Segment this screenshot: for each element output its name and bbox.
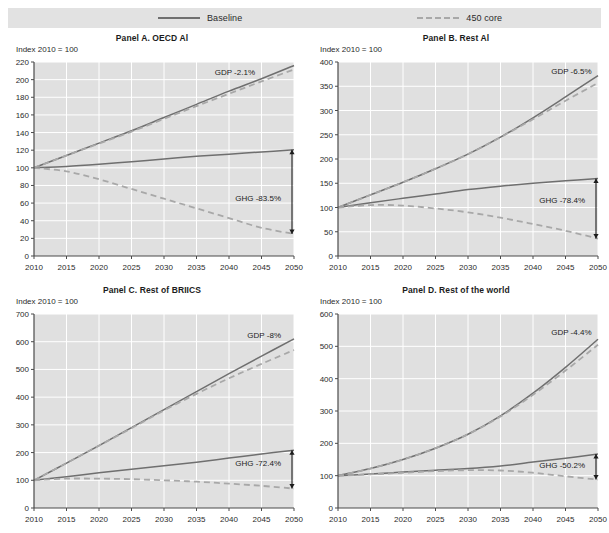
y-tick-label: 350 bbox=[320, 82, 334, 91]
panel-d-svg: 0100200300400500600201020152020202520302… bbox=[304, 308, 608, 530]
panel-a: Panel A. OECD Al Index 2010 = 100 020406… bbox=[0, 30, 304, 280]
y-tick-label: 400 bbox=[16, 393, 30, 402]
legend-label-baseline: Baseline bbox=[207, 13, 242, 23]
x-tick-label: 2050 bbox=[589, 515, 607, 524]
y-tick-label: 0 bbox=[25, 504, 30, 513]
annotation-ghg-gap: GHG -72.4% bbox=[235, 459, 281, 468]
y-tick-label: 100 bbox=[16, 164, 30, 173]
y-tick-label: 160 bbox=[16, 111, 30, 120]
x-tick-label: 2020 bbox=[394, 263, 412, 272]
x-tick-label: 2030 bbox=[459, 515, 477, 524]
x-tick-label: 2025 bbox=[427, 515, 445, 524]
x-tick-label: 2025 bbox=[427, 263, 445, 272]
panel-c-index-note: Index 2010 = 100 bbox=[0, 297, 304, 308]
y-tick-label: 300 bbox=[320, 407, 334, 416]
x-tick-label: 2040 bbox=[524, 263, 542, 272]
y-tick-label: 200 bbox=[16, 449, 30, 458]
y-tick-label: 600 bbox=[16, 338, 30, 347]
x-tick-label: 2035 bbox=[188, 263, 206, 272]
y-tick-label: 600 bbox=[320, 310, 334, 319]
annotation-gdp-gap: GDP -6.5% bbox=[551, 67, 591, 76]
x-tick-label: 2040 bbox=[220, 263, 238, 272]
y-tick-label: 500 bbox=[16, 365, 30, 374]
panel-d-plot: 0100200300400500600201020152020202520302… bbox=[304, 308, 608, 530]
panel-a-title: Panel A. OECD Al bbox=[0, 30, 304, 45]
panel-b-index-note: Index 2010 = 100 bbox=[304, 45, 608, 56]
panel-b-title: Panel B. Rest Al bbox=[304, 30, 608, 45]
panel-c-title: Panel C. Rest of BRIICS bbox=[0, 282, 304, 297]
y-tick-label: 400 bbox=[320, 58, 334, 67]
y-tick-label: 120 bbox=[16, 146, 30, 155]
annotation-ghg-gap: GHG -83.5% bbox=[235, 194, 281, 203]
x-tick-label: 2045 bbox=[253, 515, 271, 524]
x-tick-label: 2030 bbox=[155, 263, 173, 272]
panel-c-svg: 0100200300400500600700201020152020202520… bbox=[0, 308, 304, 530]
x-tick-label: 2010 bbox=[329, 263, 347, 272]
panel-a-plot: 0204060801001201401601802002202010201520… bbox=[0, 56, 304, 278]
x-tick-label: 2010 bbox=[329, 515, 347, 524]
panel-d: Panel D. Rest of the world Index 2010 = … bbox=[304, 282, 608, 532]
y-tick-label: 20 bbox=[20, 234, 29, 243]
x-tick-label: 2025 bbox=[123, 515, 141, 524]
panel-d-title: Panel D. Rest of the world bbox=[304, 282, 608, 297]
x-tick-label: 2035 bbox=[492, 263, 510, 272]
x-tick-label: 2035 bbox=[188, 515, 206, 524]
y-tick-label: 0 bbox=[25, 252, 30, 261]
annotation-gdp-gap: GDP -2.1% bbox=[215, 68, 255, 77]
y-tick-label: 300 bbox=[16, 421, 30, 430]
y-tick-label: 250 bbox=[320, 131, 334, 140]
x-tick-label: 2030 bbox=[459, 263, 477, 272]
panel-b-svg: 0501001502002503003504002010201520202025… bbox=[304, 56, 608, 278]
annotation-ghg-gap: GHG -78.4% bbox=[539, 196, 585, 205]
legend-item-baseline: Baseline bbox=[158, 13, 242, 23]
y-tick-label: 100 bbox=[16, 476, 30, 485]
annotation-ghg-gap: GHG -50.2% bbox=[539, 461, 585, 470]
legend-label-450-core: 450 core bbox=[466, 13, 502, 23]
y-tick-label: 500 bbox=[320, 342, 334, 351]
y-tick-label: 400 bbox=[320, 375, 334, 384]
figure-root: Baseline 450 core Panel A. OECD Al Index… bbox=[0, 0, 609, 533]
x-tick-label: 2050 bbox=[285, 515, 303, 524]
x-tick-label: 2025 bbox=[123, 263, 141, 272]
annotation-gdp-gap: GDP -8% bbox=[247, 331, 281, 340]
x-tick-label: 2045 bbox=[557, 263, 575, 272]
x-tick-label: 2035 bbox=[492, 515, 510, 524]
x-tick-label: 2020 bbox=[394, 515, 412, 524]
panel-b: Panel B. Rest Al Index 2010 = 100 050100… bbox=[304, 30, 608, 280]
y-tick-label: 100 bbox=[320, 472, 334, 481]
y-tick-label: 80 bbox=[20, 181, 29, 190]
x-tick-label: 2030 bbox=[155, 515, 173, 524]
panel-d-index-note: Index 2010 = 100 bbox=[304, 297, 608, 308]
x-tick-label: 2045 bbox=[253, 263, 271, 272]
y-tick-label: 60 bbox=[20, 199, 29, 208]
x-tick-label: 2020 bbox=[90, 263, 108, 272]
y-tick-label: 0 bbox=[329, 252, 334, 261]
x-tick-label: 2045 bbox=[557, 515, 575, 524]
y-tick-label: 100 bbox=[320, 204, 334, 213]
x-tick-label: 2050 bbox=[589, 263, 607, 272]
x-tick-label: 2010 bbox=[25, 263, 43, 272]
y-tick-label: 50 bbox=[324, 228, 333, 237]
x-tick-label: 2010 bbox=[25, 515, 43, 524]
panel-c: Panel C. Rest of BRIICS Index 2010 = 100… bbox=[0, 282, 304, 532]
y-tick-label: 0 bbox=[329, 504, 334, 513]
legend-swatch-solid-icon bbox=[158, 13, 200, 23]
legend-item-450-core: 450 core bbox=[417, 13, 502, 23]
y-tick-label: 140 bbox=[16, 129, 30, 138]
x-tick-label: 2015 bbox=[58, 263, 76, 272]
x-tick-label: 2040 bbox=[220, 515, 238, 524]
legend-swatch-dashed-icon bbox=[417, 13, 459, 23]
panel-b-plot: 0501001502002503003504002010201520202025… bbox=[304, 56, 608, 278]
y-tick-label: 40 bbox=[20, 217, 29, 226]
y-tick-label: 180 bbox=[16, 93, 30, 102]
panel-a-index-note: Index 2010 = 100 bbox=[0, 45, 304, 56]
y-tick-label: 300 bbox=[320, 107, 334, 116]
y-tick-label: 200 bbox=[320, 439, 334, 448]
x-tick-label: 2015 bbox=[58, 515, 76, 524]
x-tick-label: 2015 bbox=[362, 263, 380, 272]
x-tick-label: 2020 bbox=[90, 515, 108, 524]
panel-c-plot: 0100200300400500600700201020152020202520… bbox=[0, 308, 304, 530]
panels-grid: Panel A. OECD Al Index 2010 = 100 020406… bbox=[0, 30, 609, 533]
y-tick-label: 200 bbox=[16, 76, 30, 85]
panel-a-svg: 0204060801001201401601802002202010201520… bbox=[0, 56, 304, 278]
